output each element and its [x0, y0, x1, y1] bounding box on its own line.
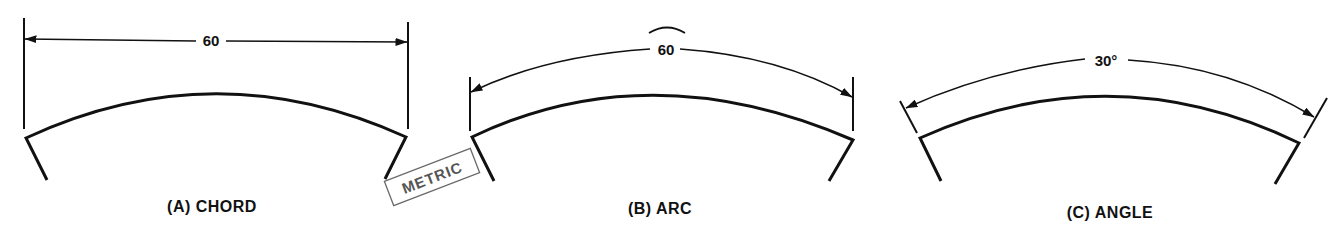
part-outline: [472, 95, 853, 181]
dimension-arc-left: [906, 59, 1085, 108]
metric-stamp: METRIC: [384, 148, 479, 205]
panel-label: (A) CHORD: [167, 198, 257, 215]
dimension-value: 60: [203, 32, 220, 49]
panel-chord: 60 (A) CHORD: [24, 18, 408, 215]
extension-line-right: [1304, 98, 1327, 138]
dimension-value: 30°: [1095, 52, 1118, 69]
panel-label: (C) ANGLE: [1067, 204, 1154, 221]
dimension-value: 60: [658, 41, 675, 58]
dimension-arc-right: [680, 49, 852, 97]
panel-label: (B) ARC: [628, 200, 692, 217]
dimension-line-left: [25, 39, 196, 41]
arc-length-symbol: [649, 28, 685, 34]
panel-angle: 30° (C) ANGLE: [900, 52, 1327, 221]
dimension-arc-right: [1128, 60, 1314, 117]
part-outline: [920, 96, 1299, 184]
extension-line-left: [900, 101, 917, 133]
dimensioning-diagram: 60 (A) CHORD METRIC 60 (B) ARC 30° (C) A…: [0, 0, 1341, 234]
dimension-arc-left: [471, 49, 650, 92]
panel-arc: 60 (B) ARC: [470, 28, 853, 218]
part-outline: [26, 94, 406, 180]
dimension-line-right: [226, 41, 407, 42]
